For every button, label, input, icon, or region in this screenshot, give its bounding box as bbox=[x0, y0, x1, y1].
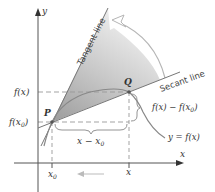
approach-arrow-icon bbox=[77, 171, 84, 177]
point-q bbox=[127, 90, 131, 94]
x-tick-label: x bbox=[126, 167, 131, 177]
y-axis-arrow-icon bbox=[35, 8, 41, 16]
curve-label: y = f(x) bbox=[167, 132, 200, 142]
horizontal-brace bbox=[55, 124, 127, 134]
x-axis-arrow-icon bbox=[176, 160, 184, 166]
horizontal-brace-label: x − x0 bbox=[77, 136, 104, 147]
x0-tick-label: x0 bbox=[48, 169, 57, 180]
y-axis-label: y bbox=[41, 6, 48, 16]
point-q-label: Q bbox=[124, 77, 132, 87]
rotation-arrowhead-icon bbox=[112, 15, 126, 27]
fx-tick-label: f(x) bbox=[13, 87, 30, 97]
rotation-shaded-region bbox=[52, 8, 160, 122]
secant-line-label: Secant line bbox=[158, 68, 206, 94]
point-p bbox=[50, 120, 54, 124]
vertical-brace-label: f(x) − f(x0) bbox=[151, 102, 198, 113]
secant-tangent-diagram: y x P Q f(x) f(x0) x0 x x − x0 f(x) − f(… bbox=[0, 0, 215, 192]
x-axis-label: x bbox=[180, 149, 185, 159]
point-p-label: P bbox=[43, 108, 51, 118]
fx0-tick-label: f(x0) bbox=[8, 117, 29, 128]
